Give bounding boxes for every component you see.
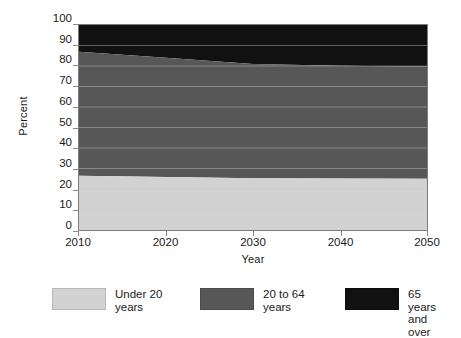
legend-item-20-to-64[interactable]: 20 to 64 years — [200, 288, 305, 320]
y-ticklabel: 60 — [38, 96, 72, 106]
y-ticklabel: 20 — [38, 179, 72, 189]
area-band — [79, 52, 427, 179]
x-ticklabel: 2040 — [311, 236, 371, 248]
y-ticklabel: 100 — [38, 13, 72, 23]
y-axis-title: Percent — [17, 71, 29, 161]
legend-item-label: 20 to 64 years — [263, 288, 305, 313]
legend-item-label: Under 20 years — [115, 288, 162, 313]
legend-swatch-icon — [52, 288, 106, 310]
x-ticklabel: 2020 — [136, 236, 196, 248]
y-ticklabel: 0 — [38, 220, 72, 230]
y-axis-ticklabels: 100 90 80 70 60 50 40 30 20 10 0 — [38, 18, 72, 231]
x-ticklabel: 2050 — [397, 236, 457, 248]
legend-item-label: 65 years and over — [408, 288, 452, 338]
y-ticklabel: 10 — [38, 199, 72, 209]
y-ticklabel: 50 — [38, 117, 72, 127]
y-ticklabel: 40 — [38, 137, 72, 147]
stacked-area-plot — [79, 25, 427, 230]
y-ticklabel: 80 — [38, 54, 72, 64]
x-axis-ticklabels: 2010 2020 2030 2040 2050 — [78, 236, 428, 252]
y-ticklabel: 90 — [38, 34, 72, 44]
legend-item-65-and-over[interactable]: 65 years and over — [345, 288, 452, 320]
legend-item-under-20[interactable]: Under 20 years — [52, 288, 162, 320]
plot-area — [78, 24, 428, 231]
area-band — [79, 176, 427, 230]
legend-swatch-icon — [200, 288, 254, 310]
y-ticklabel: 70 — [38, 75, 72, 85]
legend-swatch-icon — [345, 288, 399, 310]
x-ticklabel: 2010 — [48, 236, 108, 248]
chart-legend: Under 20 years 20 to 64 years 65 years a… — [52, 288, 452, 322]
x-axis-title: Year — [78, 253, 428, 265]
x-ticklabel: 2030 — [223, 236, 283, 248]
y-ticklabel: 30 — [38, 158, 72, 168]
